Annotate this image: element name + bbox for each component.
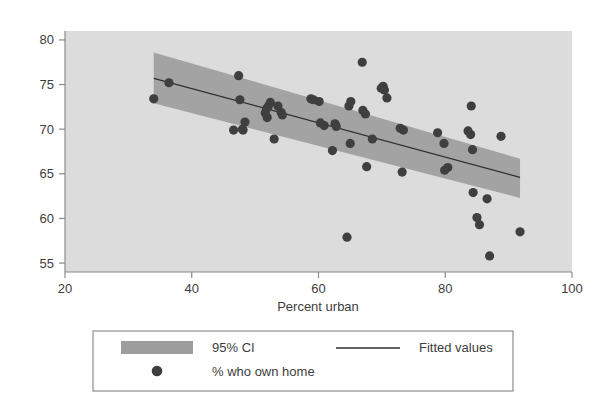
- data-point: [482, 194, 491, 203]
- data-point: [358, 58, 367, 67]
- y-tick-label: 70: [40, 122, 54, 137]
- scatter-plot-figure: 556065707580 20406080100 Percent urban 9…: [0, 0, 607, 402]
- data-point: [235, 95, 244, 104]
- y-tick-label: 55: [40, 256, 54, 271]
- data-point: [398, 167, 407, 176]
- data-point: [263, 113, 272, 122]
- y-tick-label: 75: [40, 77, 54, 92]
- x-tick-label: 60: [311, 281, 325, 296]
- legend-dot-swatch: [152, 366, 163, 377]
- data-point: [361, 109, 370, 118]
- data-point: [328, 146, 337, 155]
- y-tick-label: 60: [40, 211, 54, 226]
- y-tick-label: 80: [40, 32, 54, 47]
- x-tick-label: 20: [58, 281, 72, 296]
- data-point: [368, 134, 377, 143]
- data-point: [332, 122, 341, 131]
- chart-canvas: 556065707580 20406080100 Percent urban 9…: [0, 0, 607, 402]
- legend-band-swatch: [121, 341, 193, 354]
- data-point: [342, 233, 351, 242]
- data-point: [399, 125, 408, 134]
- x-axis-ticks: 20406080100: [58, 272, 583, 296]
- legend-label-fitted: Fitted values: [419, 340, 493, 355]
- data-point: [149, 94, 158, 103]
- data-point: [346, 97, 355, 106]
- data-point: [315, 97, 324, 106]
- data-point: [346, 139, 355, 148]
- data-point: [362, 162, 371, 171]
- data-point: [515, 227, 524, 236]
- y-axis-ticks: 556065707580: [40, 32, 65, 270]
- data-point: [380, 85, 389, 94]
- data-point: [164, 78, 173, 87]
- data-point: [229, 125, 238, 134]
- data-point: [468, 145, 477, 154]
- y-tick-label: 65: [40, 166, 54, 181]
- x-tick-label: 40: [185, 281, 199, 296]
- data-point: [469, 188, 478, 197]
- x-axis-title: Percent urban: [277, 299, 359, 314]
- x-tick-label: 100: [561, 281, 583, 296]
- plot-area-background: [65, 31, 572, 272]
- legend-label-ci: 95% CI: [212, 340, 255, 355]
- data-point: [270, 134, 279, 143]
- data-point: [496, 132, 505, 141]
- data-point: [234, 71, 243, 80]
- data-point: [433, 128, 442, 137]
- x-tick-label: 80: [438, 281, 452, 296]
- legend-label-points: % who own home: [212, 364, 315, 379]
- data-point: [382, 93, 391, 102]
- data-point: [238, 125, 247, 134]
- data-point: [240, 117, 249, 126]
- data-point: [320, 121, 329, 130]
- data-point: [466, 130, 475, 139]
- data-point: [439, 139, 448, 148]
- data-point: [475, 220, 484, 229]
- data-point: [443, 163, 452, 172]
- data-point: [278, 110, 287, 119]
- data-point: [485, 251, 494, 260]
- data-point: [467, 101, 476, 110]
